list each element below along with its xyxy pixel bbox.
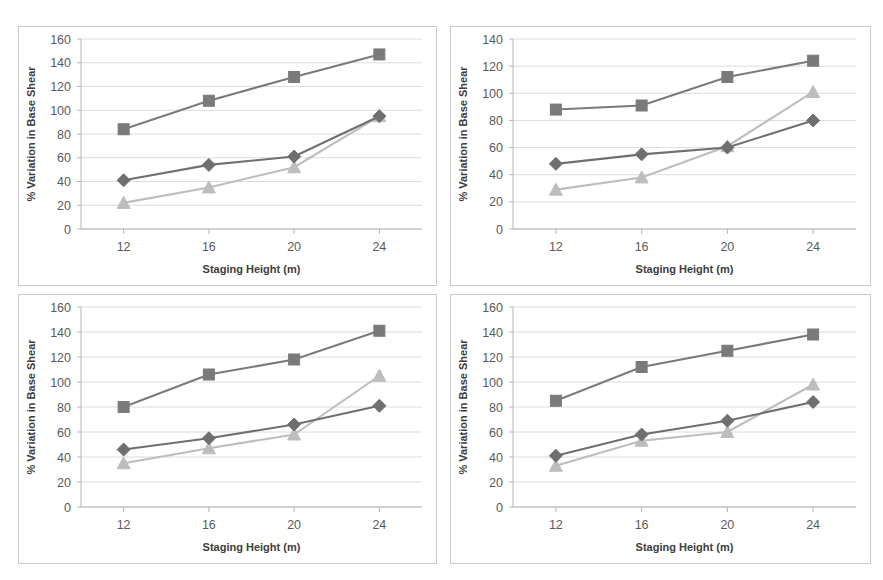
series-group-diamond (117, 110, 386, 187)
y-tick-label: 120 (50, 351, 71, 365)
data-point-square (550, 395, 561, 406)
y-tick-label: 100 (482, 376, 503, 390)
y-tick-label: 0 (496, 223, 503, 237)
chart-panel-bottom-left: 02040608010012014016012162024Staging Hei… (0, 292, 443, 580)
figure-grid: 02040608010012014016012162024Staging Hei… (0, 0, 883, 580)
series-line-triangle (556, 385, 813, 466)
y-tick-label: 60 (57, 151, 71, 165)
data-point-square (118, 402, 129, 413)
y-tick-label: 20 (489, 195, 503, 209)
x-axis-title: Staging Height (m) (636, 263, 734, 275)
data-point-square (636, 100, 647, 111)
x-ticks-group: 12162024 (549, 507, 820, 532)
y-axis-title: % Variation in Base Shear (457, 339, 469, 475)
chart-frame: 02040608010012014016012162024Staging Hei… (18, 26, 437, 286)
x-tick-label: 24 (372, 518, 386, 532)
y-tick-label: 40 (489, 451, 503, 465)
y-tick-label: 80 (489, 401, 503, 415)
y-tick-label: 120 (482, 60, 503, 74)
data-point-square (203, 95, 214, 106)
data-point-diamond (635, 148, 648, 161)
data-point-square (808, 329, 819, 340)
y-tick-label: 80 (57, 128, 71, 142)
data-point-square (203, 369, 214, 380)
data-point-square (722, 72, 733, 83)
x-axis-title: Staging Height (m) (636, 541, 734, 553)
y-tick-label: 60 (489, 141, 503, 155)
data-point-diamond (202, 158, 215, 171)
y-tick-label: 80 (489, 114, 503, 128)
x-axis-title: Staging Height (m) (203, 541, 301, 553)
y-tick-label: 0 (64, 501, 71, 515)
data-point-square (636, 362, 647, 373)
series-line-diamond (124, 406, 380, 450)
y-tick-label: 100 (50, 104, 71, 118)
x-tick-label: 24 (806, 518, 820, 532)
series-group-triangle (117, 369, 386, 469)
series-line-diamond (556, 120, 813, 163)
series-group-diamond (117, 399, 386, 456)
y-tick-label: 40 (57, 451, 71, 465)
data-point-diamond (117, 174, 130, 187)
data-point-square (374, 49, 385, 60)
x-tick-label: 20 (287, 240, 301, 254)
y-tick-label: 0 (64, 223, 71, 237)
data-point-square (374, 325, 385, 336)
data-point-square (118, 124, 129, 135)
data-point-diamond (373, 399, 386, 412)
y-tick-label: 60 (489, 426, 503, 440)
y-tick-label: 0 (496, 501, 503, 515)
x-ticks-group: 12162024 (117, 229, 387, 254)
series-line-triangle (124, 116, 380, 203)
chart-canvas-top-left: 02040608010012014016012162024Staging Hei… (19, 27, 436, 285)
data-point-triangle (373, 369, 386, 381)
y-tick-label: 160 (482, 301, 503, 315)
chart-frame: 02040608010012014016012162024Staging Hei… (450, 294, 871, 564)
y-tick-label: 20 (489, 476, 503, 490)
panel-bottom-left-svg: 02040608010012014016012162024Staging Hei… (19, 295, 436, 563)
x-tick-label: 12 (549, 518, 563, 532)
x-axis-title: Staging Height (m) (203, 263, 301, 275)
series-group-square (118, 49, 385, 135)
y-tick-label: 20 (57, 476, 71, 490)
x-tick-label: 20 (720, 240, 734, 254)
x-tick-label: 24 (806, 240, 820, 254)
x-tick-label: 20 (720, 518, 734, 532)
series-group-square (550, 55, 818, 115)
data-point-triangle (807, 85, 820, 97)
y-tick-label: 60 (57, 426, 71, 440)
series-line-square (124, 54, 380, 129)
chart-canvas-bottom-right: 02040608010012014016012162024Staging Hei… (451, 295, 870, 563)
y-tick-label: 140 (482, 326, 503, 340)
chart-panel-bottom-right: 02040608010012014016012162024Staging Hei… (443, 292, 883, 580)
x-tick-label: 24 (372, 240, 386, 254)
x-tick-label: 16 (202, 518, 216, 532)
panel-top-left-svg: 02040608010012014016012162024Staging Hei… (19, 27, 436, 285)
data-point-square (722, 345, 733, 356)
x-ticks-group: 12162024 (549, 229, 820, 254)
series-line-square (556, 335, 813, 401)
x-ticks-group: 12162024 (117, 507, 387, 532)
data-point-diamond (288, 418, 301, 431)
x-tick-label: 16 (202, 240, 216, 254)
data-point-diamond (288, 150, 301, 163)
data-point-square (289, 354, 300, 365)
series-line-triangle (124, 376, 380, 464)
y-tick-label: 140 (50, 56, 71, 70)
chart-panel-top-left: 02040608010012014016012162024Staging Hei… (0, 0, 443, 292)
y-tick-label: 100 (50, 376, 71, 390)
gridlines-group: 020406080100120140160 (482, 301, 856, 515)
data-point-square (289, 72, 300, 83)
x-tick-label: 16 (635, 518, 649, 532)
panel-top-right-svg: 02040608010012014012162024Staging Height… (451, 27, 870, 285)
y-axis-title: % Variation in Base Shear (25, 66, 37, 202)
x-tick-label: 16 (635, 240, 649, 254)
x-tick-label: 12 (117, 240, 131, 254)
y-tick-label: 100 (482, 87, 503, 101)
x-tick-label: 12 (117, 518, 131, 532)
panel-bottom-right-svg: 02040608010012014016012162024Staging Hei… (451, 295, 870, 563)
series-group-triangle (117, 110, 386, 209)
y-tick-label: 120 (482, 351, 503, 365)
y-tick-label: 140 (482, 33, 503, 47)
series-line-diamond (124, 116, 380, 180)
